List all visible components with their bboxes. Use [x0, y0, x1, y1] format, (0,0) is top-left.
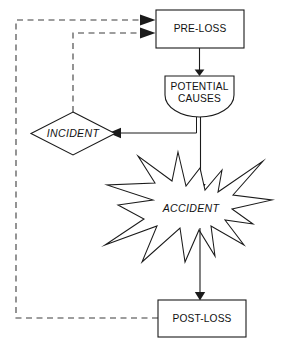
feedback-path-inner	[73, 33, 140, 112]
edge-accident-to-post-loss	[195, 228, 205, 301]
connector-potential-causes-incident	[121, 117, 197, 133]
arrowhead-post-loss	[195, 292, 205, 301]
flowchart-diagram: PRE-LOSS POTENTIAL CAUSES INCIDENT	[0, 0, 282, 345]
potential-causes-label-line1: POTENTIAL	[171, 81, 229, 92]
potential-causes-label-line2: CAUSES	[178, 93, 221, 104]
feedback-path-outer	[16, 20, 158, 318]
arrowhead-potential-causes	[195, 70, 205, 77]
node-incident[interactable]: INCIDENT	[31, 112, 115, 155]
node-accident[interactable]: ACCIDENT	[105, 152, 272, 262]
edge-potential-causes-to-incident	[109, 117, 197, 138]
edge-post-loss-to-pre-loss-feedback	[16, 15, 158, 318]
edge-incident-to-pre-loss-feedback	[73, 28, 156, 112]
post-loss-label: POST-LOSS	[172, 313, 231, 324]
arrowhead-inner-feedback	[140, 28, 156, 39]
node-pre-loss[interactable]: PRE-LOSS	[156, 10, 244, 48]
edge-pre-loss-to-potential-causes	[195, 48, 205, 76]
flowchart-canvas: PRE-LOSS POTENTIAL CAUSES INCIDENT	[0, 0, 282, 345]
pre-loss-label: PRE-LOSS	[174, 23, 227, 34]
node-potential-causes[interactable]: POTENTIAL CAUSES	[165, 76, 234, 117]
incident-label: INCIDENT	[47, 127, 101, 139]
accident-label: ACCIDENT	[162, 202, 221, 214]
node-post-loss[interactable]: POST-LOSS	[158, 300, 246, 337]
arrowhead-outer-feedback	[140, 15, 156, 26]
